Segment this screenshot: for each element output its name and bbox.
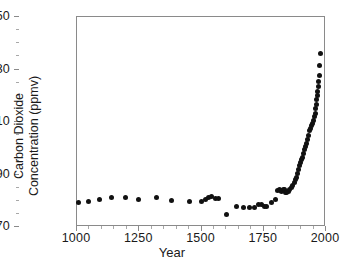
x-axis-minor-tick (313, 226, 314, 229)
data-point (314, 97, 319, 102)
x-axis-minor-tick (101, 226, 102, 229)
data-point (314, 102, 319, 107)
data-point (317, 73, 322, 78)
data-point (264, 204, 269, 209)
x-axis-minor-tick (238, 226, 239, 229)
y-axis-tick (14, 226, 19, 227)
y-axis-tick-label: 310 (0, 114, 10, 128)
data-point (318, 51, 323, 56)
y-axis-label: Carbon Dioxide Concentration (ppmv) (12, 46, 42, 226)
x-axis-minor-tick (250, 226, 251, 229)
data-point (241, 205, 246, 210)
x-axis-minor-tick (88, 226, 89, 229)
data-point (187, 199, 192, 204)
data-point (234, 204, 239, 209)
data-point (316, 79, 321, 84)
data-point (273, 197, 278, 202)
y-axis-minor-tick (16, 42, 19, 43)
plot-area (76, 16, 325, 226)
co2-concentration-chart: 27029031033035010001250150017502000 Carb… (0, 0, 344, 265)
scatter-points-layer (77, 17, 324, 225)
data-point (295, 171, 300, 176)
data-point (169, 198, 174, 203)
data-point (306, 133, 311, 138)
y-axis-minor-tick (16, 29, 19, 30)
data-point (317, 63, 322, 68)
y-axis-tick-label: 270 (0, 219, 10, 233)
x-axis-tick-label: 1750 (248, 231, 277, 245)
data-point (76, 200, 81, 205)
x-axis-minor-tick (163, 226, 164, 229)
data-point (316, 84, 321, 89)
data-point (154, 195, 159, 200)
x-axis-tick-label: 1000 (62, 231, 91, 245)
x-axis-minor-tick (176, 226, 177, 229)
x-axis-minor-tick (213, 226, 214, 229)
x-axis-tick-label: 2000 (311, 231, 340, 245)
data-point (86, 199, 91, 204)
y-axis-tick-label: 290 (0, 167, 10, 181)
x-axis-minor-tick (126, 226, 127, 229)
x-axis-label: Year (0, 245, 344, 260)
x-axis-minor-tick (225, 226, 226, 229)
x-axis-minor-tick (300, 226, 301, 229)
data-point (97, 197, 102, 202)
y-axis-tick (14, 16, 19, 17)
data-point (313, 106, 318, 111)
data-point (123, 195, 128, 200)
y-axis-tick-label: 350 (0, 9, 10, 23)
x-axis-minor-tick (275, 226, 276, 229)
x-axis-tick-label: 1250 (124, 231, 153, 245)
data-point (136, 197, 141, 202)
x-axis-minor-tick (151, 226, 152, 229)
data-point (313, 111, 318, 116)
y-axis-tick-label: 330 (0, 62, 10, 76)
x-axis-tick-label: 1500 (186, 231, 215, 245)
x-axis-minor-tick (288, 226, 289, 229)
x-axis-minor-tick (188, 226, 189, 229)
data-point (109, 195, 114, 200)
data-point (216, 196, 221, 201)
x-axis-minor-tick (113, 226, 114, 229)
data-point (224, 212, 229, 217)
